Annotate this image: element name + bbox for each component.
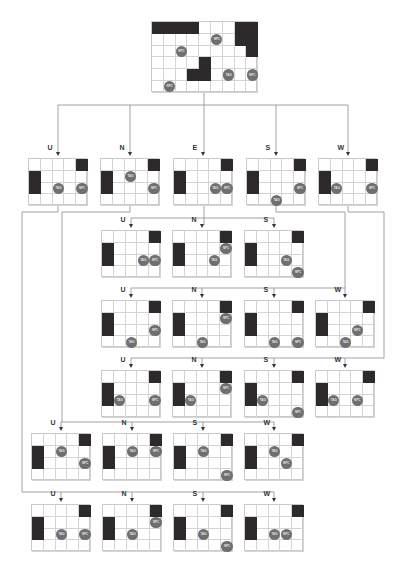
tag-agent-icon: TAG	[210, 183, 221, 194]
arrow-down-icon	[272, 427, 276, 431]
grid-cell	[208, 231, 220, 243]
grid-cell	[247, 159, 259, 171]
grid-cell	[102, 371, 114, 383]
grid-cell	[198, 517, 210, 529]
grid-cell	[351, 336, 363, 348]
grid-cell	[245, 505, 257, 517]
grid-cell	[173, 336, 185, 348]
grid-cell	[186, 540, 198, 552]
grid-cell	[44, 434, 56, 446]
wall-block	[174, 446, 186, 470]
grid-cell	[366, 171, 378, 183]
grid-cell	[103, 540, 115, 552]
state-grid-r3-W: TAGNPC	[315, 300, 374, 347]
state-grid-r5-N: TAGNPC	[102, 433, 161, 480]
grid-cell	[76, 194, 88, 206]
grid-cell	[280, 406, 292, 418]
grid-cell	[235, 69, 247, 81]
wall-block	[103, 517, 115, 541]
grid-cell	[271, 171, 283, 183]
grid-cell	[148, 194, 160, 206]
grid-cell	[340, 325, 352, 337]
npc-agent-icon: NPC	[149, 395, 160, 406]
npc-agent-icon: NPC	[292, 407, 303, 418]
wall-block	[292, 434, 304, 446]
grid-cell	[235, 57, 247, 69]
grid-cell	[209, 469, 221, 481]
grid-cell	[319, 194, 331, 206]
grid-cell	[115, 517, 127, 529]
state-grid-r6-U: TAGNPC	[31, 504, 90, 551]
grid-cell	[185, 325, 197, 337]
grid-cell	[269, 469, 281, 481]
grid-cell	[257, 406, 269, 418]
grid-cell	[29, 194, 41, 206]
wall-block	[292, 371, 304, 383]
arrow-down-icon	[272, 498, 276, 502]
wall-block	[187, 69, 199, 81]
grid-cell	[257, 517, 269, 529]
grid-cell	[126, 325, 138, 337]
grid-cell	[351, 406, 363, 418]
grid-cell	[186, 194, 198, 206]
npc-agent-icon: NPC	[149, 255, 160, 266]
grid-cell	[103, 434, 115, 446]
grid-cell	[208, 383, 220, 395]
grid-cell	[245, 406, 257, 418]
grid-cell	[363, 313, 375, 325]
grid-cell	[198, 458, 210, 470]
grid-cell	[316, 336, 328, 348]
grid-cell	[126, 231, 138, 243]
grid-cell	[343, 183, 355, 195]
grid-cell	[328, 383, 340, 395]
grid-cell	[280, 469, 292, 481]
grid-cell	[44, 458, 56, 470]
grid-cell	[186, 517, 198, 529]
grid-cell	[137, 231, 149, 243]
grid-cell	[197, 231, 209, 243]
grid-cell	[197, 301, 209, 313]
arrow-down-icon	[201, 152, 205, 156]
wall-block	[246, 46, 258, 58]
wall-block	[316, 383, 328, 407]
grid-cell	[186, 434, 198, 446]
wall-block	[102, 243, 114, 267]
grid-cell	[257, 231, 269, 243]
grid-cell	[354, 159, 366, 171]
grid-cell	[223, 22, 235, 34]
grid-cell	[340, 301, 352, 313]
grid-cell	[186, 458, 198, 470]
wall-block	[32, 517, 44, 541]
arrow-down-icon	[56, 152, 60, 156]
grid-cell	[152, 46, 164, 58]
grid-cell	[282, 171, 294, 183]
grid-cell	[269, 395, 281, 407]
npc-agent-icon: NPC	[352, 325, 363, 336]
grid-cell	[235, 46, 247, 58]
grid-cell	[220, 325, 232, 337]
grid-cell	[223, 46, 235, 58]
action-label: U	[51, 490, 56, 497]
grid-cell	[209, 517, 221, 529]
arrow-down-icon	[130, 498, 134, 502]
grid-cell	[115, 505, 127, 517]
grid-cell	[282, 183, 294, 195]
state-grid-r6-S: TAGNPC	[173, 504, 232, 551]
wall-block	[292, 301, 304, 313]
grid-cell	[363, 336, 375, 348]
grid-cell	[127, 505, 139, 517]
grid-cell	[185, 336, 197, 348]
wall-block	[79, 505, 91, 517]
grid-cell	[79, 517, 91, 529]
grid-cell	[245, 336, 257, 348]
grid-cell	[331, 171, 343, 183]
grid-cell	[67, 517, 79, 529]
action-label: S	[264, 216, 269, 223]
grid-cell	[245, 540, 257, 552]
grid-cell	[209, 540, 221, 552]
npc-agent-icon: NPC	[148, 183, 159, 194]
state-grid-r3-U: TAGNPC	[101, 300, 160, 347]
grid-cell	[280, 446, 292, 458]
grid-cell	[29, 159, 41, 171]
grid-cell	[126, 383, 138, 395]
